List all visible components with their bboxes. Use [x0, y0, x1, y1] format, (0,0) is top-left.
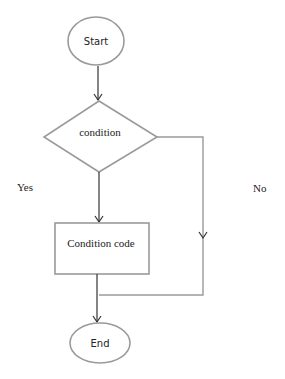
- node-condition: condition: [44, 101, 157, 172]
- start-label: Start: [84, 36, 109, 47]
- flowchart-canvas: Start condition Condition code End Yes N…: [0, 0, 285, 379]
- edge-yes-branch: [95, 172, 103, 222]
- no-branch-label: No: [253, 182, 267, 194]
- condition-label: condition: [79, 126, 121, 138]
- node-end: End: [70, 323, 130, 363]
- condition-code-label: Condition code: [67, 237, 135, 249]
- yes-branch-label: Yes: [17, 181, 33, 193]
- end-label: End: [90, 338, 109, 349]
- node-start: Start: [68, 17, 124, 65]
- edge-code-to-end: [93, 274, 101, 322]
- node-condition-code: Condition code: [55, 223, 149, 274]
- edge-start-to-condition: [94, 66, 102, 100]
